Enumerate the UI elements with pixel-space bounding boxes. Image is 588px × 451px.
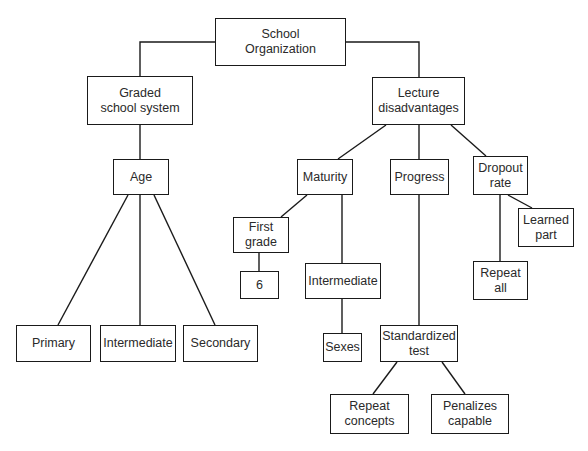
node-primary: Primary — [16, 325, 91, 362]
node-intermediate-maturity: Intermediate — [305, 263, 381, 299]
node-age: Age — [113, 159, 169, 195]
node-sexes: Sexes — [323, 333, 362, 362]
node-repeat-concepts: Repeat concepts — [330, 394, 409, 434]
node-lecture-disadvantages: Lecture disadvantages — [372, 77, 465, 125]
node-dropout-rate: Dropout rate — [473, 156, 528, 195]
edge-root-graded — [140, 42, 215, 76]
node-six: 6 — [240, 271, 279, 299]
edge-standardized-repeat — [373, 362, 397, 394]
edge-age-primary — [58, 195, 128, 325]
node-school-organization: School Organization — [215, 18, 346, 66]
node-progress: Progress — [390, 159, 449, 195]
node-learned-part: Learned part — [518, 208, 574, 247]
edge-maturity-firstgrade — [281, 195, 307, 217]
node-first-grade: First grade — [233, 217, 289, 253]
node-maturity: Maturity — [297, 159, 353, 195]
connector-lines — [0, 0, 588, 451]
edge-dropout-learned — [508, 195, 532, 208]
edge-standardized-penalizes — [442, 362, 465, 394]
node-penalizes-capable: Penalizes capable — [431, 394, 509, 434]
node-intermediate-age: Intermediate — [100, 325, 176, 362]
node-standardized-test: Standardized test — [380, 325, 458, 362]
edge-lecture-maturity — [338, 125, 386, 159]
node-graded-school-system: Graded school system — [87, 76, 193, 125]
node-secondary: Secondary — [183, 325, 258, 362]
edge-age-secondary — [154, 195, 215, 325]
edge-root-lecture — [346, 42, 419, 77]
node-repeat-all: Repeat all — [473, 261, 528, 300]
edge-lecture-dropout — [451, 125, 486, 156]
